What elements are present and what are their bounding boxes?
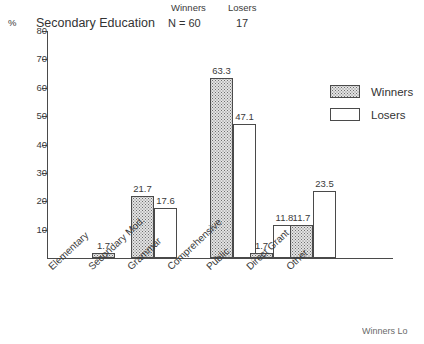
bar-value-label: 47.1 (226, 111, 263, 122)
y-tick-label-10: 10 (25, 224, 47, 235)
bar-losers-other (313, 191, 336, 258)
y-axis (47, 31, 48, 259)
bar-value-label: 21.7 (124, 183, 161, 194)
x-category-label-elementary: Elementary (46, 230, 90, 273)
plot-area: 1020304050607080 1.721.717.663.347.11.71… (0, 0, 424, 344)
y-tick-label-40: 40 (25, 139, 47, 150)
legend-item-losers: Losers (330, 105, 413, 124)
bar-losers-public (233, 124, 256, 258)
bar-value-label: 23.5 (306, 178, 343, 189)
legend-label-losers: Losers (371, 109, 406, 121)
bar-value-label: 17.6 (147, 195, 184, 206)
page-bleed-text: Winners Lo (362, 326, 424, 336)
y-tick-label-80: 80 (25, 25, 47, 36)
y-tick-label-70: 70 (25, 53, 47, 64)
y-tick-label-30: 30 (25, 167, 47, 178)
bar-value-label: 63.3 (203, 65, 240, 76)
legend-swatch-losers-icon (330, 108, 360, 121)
y-tick-label-60: 60 (25, 82, 47, 93)
bar-losers-grammar (154, 208, 177, 258)
chart-figure: % Secondary Education Winners Losers N =… (0, 0, 424, 344)
legend-item-winners: Winners (330, 82, 413, 101)
y-tick-label-50: 50 (25, 110, 47, 121)
y-tick-label-20: 20 (25, 195, 47, 206)
legend-swatch-winners-icon (330, 85, 360, 98)
chart-legend: Winners Losers (330, 82, 413, 128)
legend-label-winners: Winners (371, 86, 413, 98)
